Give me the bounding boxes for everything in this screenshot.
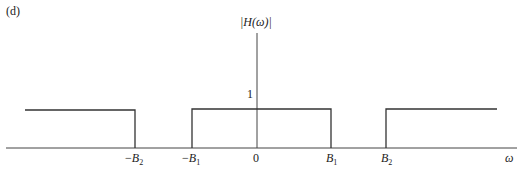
tick-b1: B1 — [326, 152, 337, 167]
left-passband — [25, 110, 135, 148]
tick-neg-b2: −B2 — [125, 152, 143, 167]
tick-zero: 0 — [253, 152, 259, 164]
panel-label: (d) — [6, 5, 20, 17]
tick-b2: B2 — [381, 152, 392, 167]
tick-neg-b1: −B1 — [182, 152, 200, 167]
y-axis-label: |H(ω)| — [240, 16, 272, 28]
center-passband — [192, 109, 331, 148]
right-passband — [386, 109, 497, 148]
level-one-label: 1 — [247, 88, 253, 100]
x-axis-label: ω — [505, 152, 513, 164]
